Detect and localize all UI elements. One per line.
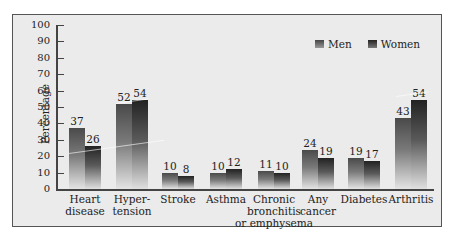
y-tick [56,74,64,75]
y-tick [56,173,64,174]
bar-women [274,173,290,189]
y-tick-label: 100 [28,20,50,30]
bar-men [258,171,274,189]
y-tick [56,25,64,26]
bar-value-label: 12 [222,157,246,168]
bar-men [348,158,364,189]
y-tick [56,156,64,157]
bar-value-label: 8 [174,164,198,175]
y-tick-label: 10 [28,168,50,178]
legend-label-men: Men [328,38,352,50]
bar-value-label: 17 [360,149,384,160]
bar-men [395,118,411,189]
bar-value-label: 37 [65,116,89,127]
legend-label-women: Women [381,38,420,50]
y-tick [56,41,64,42]
x-axis [56,189,434,191]
bar-men [210,173,226,189]
legend-swatch-men [315,40,324,48]
y-tick [56,58,64,59]
y-tick-label: 30 [28,135,50,145]
y-tick-label: 60 [28,86,50,96]
y-tick [56,140,64,141]
legend-swatch-women [368,40,377,48]
bar-value-label: 54 [128,88,152,99]
bar-women [364,161,380,189]
category-label: Arthritis [371,193,451,205]
bar-value-label: 19 [314,146,338,157]
y-tick-label: 90 [28,36,50,46]
y-tick-label: 50 [28,102,50,112]
y-tick [56,91,64,92]
y-tick [56,123,64,124]
y-tick [56,107,64,108]
y-tick-label: 80 [28,53,50,63]
y-tick-label: 20 [28,151,50,161]
bar-value-label: 10 [270,161,294,172]
y-tick-label: 40 [28,118,50,128]
y-tick [56,189,64,190]
legend: Men Women [315,38,420,50]
bar-women [318,158,334,189]
bar-women [85,146,101,189]
bar-women [226,169,242,189]
bar-women [178,176,194,189]
bar-women [411,100,427,189]
y-tick-label: 70 [28,69,50,79]
bar-men [162,173,178,189]
bar-value-label: 26 [81,134,105,145]
